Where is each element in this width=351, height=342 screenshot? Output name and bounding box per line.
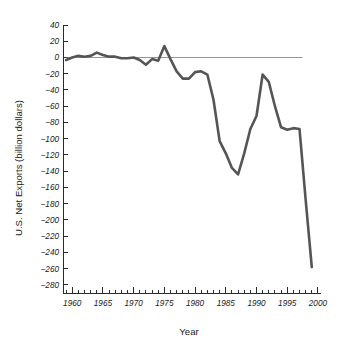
y-tick-label: −180 <box>41 200 60 209</box>
y-axis-title: U.S. Net Exports (billion dollars) <box>13 100 24 236</box>
y-tick-label: −60 <box>45 102 59 111</box>
tick-labels: 40200−20−40−60−80−100−120−140−160−180−20… <box>41 21 328 308</box>
x-axis-title: Year <box>179 326 199 337</box>
x-tick-label: 1975 <box>155 299 174 308</box>
y-tick-label: −260 <box>41 265 60 274</box>
y-tick-label: −200 <box>41 216 60 225</box>
axes <box>63 25 321 293</box>
y-tick-label: −240 <box>41 248 60 257</box>
x-tick-label: 1970 <box>125 299 144 308</box>
y-tick-label: −100 <box>41 135 60 144</box>
x-tick-label: 1990 <box>247 299 266 308</box>
y-tick-label: −140 <box>41 167 60 176</box>
x-tick-label: 1960 <box>63 299 82 308</box>
y-tick-label: 0 <box>54 53 59 62</box>
y-tick-label: −120 <box>41 151 60 160</box>
chart-container: 40200−20−40−60−80−100−120−140−160−180−20… <box>0 0 351 342</box>
y-tick-label: −40 <box>45 86 59 95</box>
data-series-net-exports <box>66 46 312 267</box>
y-tick-label: 20 <box>49 37 60 46</box>
y-tick-label: −280 <box>41 281 60 290</box>
y-tick-label: −220 <box>41 232 60 241</box>
x-tick-label: 2000 <box>308 299 328 308</box>
net-exports-line <box>66 46 312 267</box>
x-tick-label: 1985 <box>217 299 236 308</box>
x-tick-label: 1965 <box>94 299 113 308</box>
x-tick-label: 1995 <box>278 299 297 308</box>
y-tick-label: −20 <box>45 70 59 79</box>
net-exports-line-chart: 40200−20−40−60−80−100−120−140−160−180−20… <box>0 0 351 342</box>
y-tick-label: 40 <box>50 21 60 30</box>
y-tick-label: −160 <box>41 183 60 192</box>
x-tick-label: 1980 <box>186 299 205 308</box>
y-tick-label: −80 <box>45 118 59 127</box>
